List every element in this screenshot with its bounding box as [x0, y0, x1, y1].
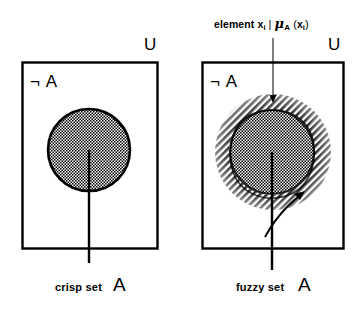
- figure-root: element xi | μA (xi) U ¬ A crisp set A U…: [0, 0, 358, 314]
- membership-close-paren: ): [305, 18, 309, 30]
- element-annotation-word: element: [214, 18, 254, 30]
- membership-variable: x: [297, 18, 303, 30]
- fuzzy-universe-label: U: [328, 36, 340, 53]
- fuzzy-caption-text: fuzzy set: [236, 282, 284, 293]
- crisp-caption-text: crisp set: [55, 282, 102, 293]
- crisp-panel: [23, 63, 158, 264]
- membership-subscript: A: [284, 23, 290, 32]
- membership-variable-subscript: i: [303, 23, 305, 32]
- fuzzy-complement-label: ¬ A: [210, 73, 238, 90]
- crisp-caption-symbol: A: [113, 275, 126, 294]
- element-annotation-variable-subscript: i: [263, 23, 265, 32]
- membership-symbol: μ: [275, 16, 285, 31]
- crisp-universe-label: U: [144, 36, 156, 53]
- fuzzy-caption-symbol: A: [298, 275, 311, 294]
- diagram-svg: [0, 0, 358, 314]
- crisp-complement-label: ¬ A: [30, 73, 58, 90]
- element-annotation: element xi | μA (xi): [214, 17, 309, 30]
